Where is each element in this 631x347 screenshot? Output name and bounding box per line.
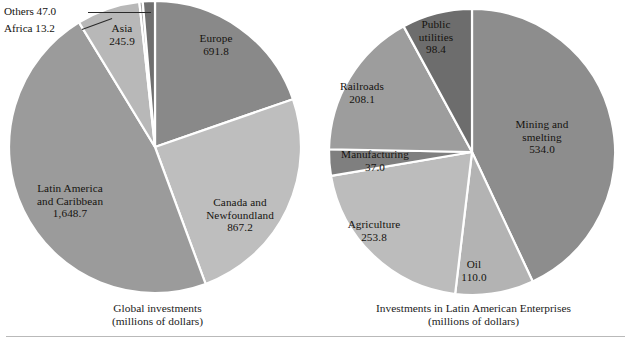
callout-label-others: Others 47.0	[4, 5, 56, 18]
slice-label-mining-value: 534.0	[498, 143, 586, 156]
slice-label-mining-name-1: Mining and	[498, 118, 586, 131]
slice-label-latin-america-name-2: and Caribbean	[18, 195, 122, 208]
latin-american-enterprises-pie	[0, 0, 631, 347]
slice-label-manufacturing-value: 37.0	[330, 161, 420, 174]
slice-label-europe-name: Europe	[176, 32, 256, 45]
slice-label-asia-name: Asia	[94, 22, 150, 35]
slice-label-canada-name-1: Canada and	[188, 196, 292, 209]
slice-label-oil-name: Oil	[446, 258, 502, 271]
slice-label-public-utilities: Public utilities 98.4	[408, 18, 464, 56]
bottom-divider	[6, 336, 625, 337]
caption-global-investments: Global investments (millions of dollars)	[0, 302, 315, 329]
pie-chart-figure: Europe 691.8 Canada and Newfoundland 867…	[0, 0, 631, 347]
slice-label-europe: Europe 691.8	[176, 32, 256, 57]
slice-label-asia-value: 245.9	[94, 35, 150, 48]
slice-label-canada: Canada and Newfoundland 867.2	[188, 196, 292, 234]
slice-label-manufacturing: Manufacturing 37.0	[330, 148, 420, 173]
slice-label-utilities-name-1: Public	[408, 18, 464, 31]
slice-label-latin-america: Latin America and Caribbean 1,648.7	[18, 182, 122, 220]
caption-global-title: Global investments	[0, 302, 315, 315]
slice-label-agriculture-value: 253.8	[336, 231, 412, 244]
caption-global-unit: (millions of dollars)	[0, 315, 315, 328]
slice-label-asia: Asia 245.9	[94, 22, 150, 47]
slice-label-railroads-value: 208.1	[326, 93, 398, 106]
slice-label-oil-value: 110.0	[446, 271, 502, 284]
slice-label-agriculture: Agriculture 253.8	[336, 218, 412, 243]
slice-label-canada-name-2: Newfoundland	[188, 209, 292, 222]
caption-latam-unit: (millions of dollars)	[316, 315, 631, 328]
slice-label-latin-america-name-1: Latin America	[18, 182, 122, 195]
slice-label-europe-value: 691.8	[176, 45, 256, 58]
slice-label-railroads: Railroads 208.1	[326, 80, 398, 105]
slice-label-mining-and-smelting: Mining and smelting 534.0	[498, 118, 586, 156]
caption-latam-title: Investments in Latin American Enterprise…	[316, 302, 631, 315]
caption-latin-american-enterprises: Investments in Latin American Enterprise…	[316, 302, 631, 329]
slice-label-canada-value: 867.2	[188, 221, 292, 234]
slice-label-oil: Oil 110.0	[446, 258, 502, 283]
callout-leader-others	[88, 12, 151, 13]
slice-label-manufacturing-name: Manufacturing	[330, 148, 420, 161]
slice-label-railroads-name: Railroads	[326, 80, 398, 93]
slice-label-mining-name-2: smelting	[498, 131, 586, 144]
callout-label-africa: Africa 13.2	[4, 22, 55, 35]
slice-label-utilities-name-2: utilities	[408, 31, 464, 44]
slice-label-latin-america-value: 1,648.7	[18, 207, 122, 220]
slice-label-utilities-value: 98.4	[408, 43, 464, 56]
slice-label-agriculture-name: Agriculture	[336, 218, 412, 231]
